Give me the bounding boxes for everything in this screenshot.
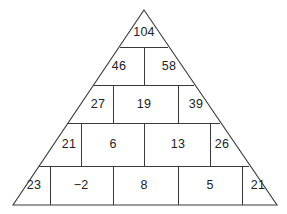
- pyramid-cell-r4c1: 21: [62, 137, 76, 151]
- pyramid-cell-r3c2: 19: [137, 97, 151, 111]
- pyramid-cell-r4c2: 6: [109, 137, 116, 151]
- pyramid-cell-r5c3: 8: [140, 178, 147, 192]
- pyramid-cell-r1c1: 104: [133, 25, 154, 39]
- pyramid-cell-r5c2: −2: [74, 178, 89, 192]
- pyramid-cell-r5c5: 21: [251, 178, 265, 192]
- number-pyramid-figure: 104 46 58 27 19 39 21 6 13 26 23 −2 8 5 …: [0, 0, 287, 214]
- pyramid-cell-r2c2: 58: [162, 59, 176, 73]
- pyramid-cell-r4c3: 13: [171, 137, 185, 151]
- pyramid-cell-r4c4: 26: [215, 137, 229, 151]
- pyramid-svg: 104 46 58 27 19 39 21 6 13 26 23 −2 8 5 …: [0, 0, 287, 214]
- pyramid-cell-r5c1: 23: [27, 178, 41, 192]
- pyramid-cell-r3c1: 27: [91, 97, 105, 111]
- pyramid-cell-r3c3: 39: [189, 97, 203, 111]
- pyramid-cell-r2c1: 46: [112, 59, 126, 73]
- pyramid-cell-r5c4: 5: [206, 178, 213, 192]
